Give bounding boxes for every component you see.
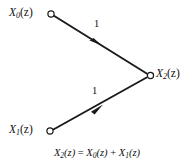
equation-plus-sign: + bbox=[108, 147, 119, 158]
node-circle-x2 bbox=[147, 72, 153, 78]
node-label-x1-main: X bbox=[9, 123, 16, 135]
node-circle-x1 bbox=[47, 128, 53, 134]
node-label-x2-argument: (z) bbox=[167, 67, 180, 79]
equation-equals-sign: = bbox=[75, 147, 86, 158]
figure-equation-caption: X2(z) = X0(z) + X1(z) bbox=[0, 148, 194, 160]
equation-lhs-argument: (z) bbox=[64, 147, 75, 158]
node-label-x0: X0(z) bbox=[9, 7, 33, 20]
signal-flow-graph-figure: X0(z) X1(z) X2(z) 1 1 X2(z) = X0(z) + X1… bbox=[0, 0, 194, 168]
branch-gain-label-x1-x2: 1 bbox=[92, 86, 97, 97]
branch-line-x1-x2 bbox=[53, 77, 148, 130]
node-label-x0-main: X bbox=[9, 6, 16, 18]
node-label-x1-argument: (z) bbox=[20, 123, 33, 135]
node-label-x2: X2(z) bbox=[156, 68, 180, 81]
branch-gain-label-x0-x2: 1 bbox=[94, 19, 99, 30]
equation-rhs1-argument: (z) bbox=[97, 147, 108, 158]
node-circle-x0 bbox=[48, 11, 54, 17]
equation-rhs2-argument: (z) bbox=[129, 147, 140, 158]
node-label-x0-argument: (z) bbox=[20, 6, 33, 18]
node-label-x1: X1(z) bbox=[9, 124, 33, 137]
node-label-x2-main: X bbox=[156, 67, 163, 79]
